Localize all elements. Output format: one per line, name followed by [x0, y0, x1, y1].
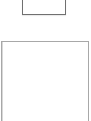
top-box[interactable]	[22, 0, 66, 15]
main-panel	[1, 41, 89, 121]
